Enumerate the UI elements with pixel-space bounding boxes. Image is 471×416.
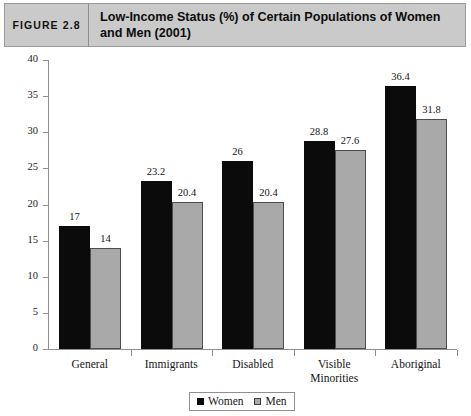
x-axis-category-label: Immigrants (125, 358, 219, 372)
bar-value-label: 27.6 (327, 135, 374, 146)
bar-men (335, 150, 366, 349)
x-axis-line (48, 349, 457, 350)
x-axis-tick (131, 350, 132, 356)
bar-men (90, 248, 121, 349)
bar-women (385, 86, 416, 349)
bar-men (172, 202, 203, 349)
bar-value-label: 36.4 (377, 71, 424, 82)
bar-value-label: 20.4 (164, 187, 211, 198)
bar-value-label: 26 (214, 146, 261, 157)
x-axis-category-label: Disabled (206, 358, 300, 372)
x-axis-tick (212, 350, 213, 356)
figure-container: FIGURE 2.8 Low-Income Status (%) of Cert… (0, 0, 471, 416)
figure-number-label: FIGURE 2.8 (12, 19, 80, 31)
legend-swatch-men-icon (254, 398, 261, 405)
x-axis-category-label: General (43, 358, 137, 372)
bar-value-label: 20.4 (245, 187, 292, 198)
legend-item-women: Women (197, 395, 243, 407)
y-axis-tick (43, 349, 48, 350)
x-axis-category-label: Aboriginal (369, 358, 463, 372)
figure-title-cell: Low-Income Status (%) of Certain Populat… (89, 4, 465, 46)
bars-layer (4, 47, 466, 349)
bar-men (253, 202, 284, 349)
x-axis-tick (294, 350, 295, 356)
bar-value-label: 17 (51, 211, 98, 222)
bar-value-label: 31.8 (408, 104, 455, 115)
bar-women (59, 226, 90, 349)
bar-value-label: 23.2 (133, 166, 180, 177)
x-axis-tick (457, 350, 458, 356)
legend-label-men: Men (265, 395, 286, 407)
x-axis-category-label: VisibleMinorities (288, 358, 382, 385)
legend-swatch-women-icon (197, 398, 204, 405)
chart-legend: Women Men (189, 392, 295, 411)
chart-plot-area: 0510152025303540 171423.220.42620.428.82… (4, 47, 466, 412)
figure-title: Low-Income Status (%) of Certain Populat… (100, 9, 459, 42)
bar-value-label: 14 (82, 233, 129, 244)
bar-women (304, 141, 335, 349)
x-axis-tick (375, 350, 376, 356)
figure-number-cell: FIGURE 2.8 (5, 4, 89, 46)
legend-item-men: Men (254, 395, 286, 407)
bar-women (141, 181, 172, 349)
bar-men (416, 119, 447, 349)
figure-header: FIGURE 2.8 Low-Income Status (%) of Cert… (4, 3, 466, 47)
legend-label-women: Women (208, 395, 243, 407)
